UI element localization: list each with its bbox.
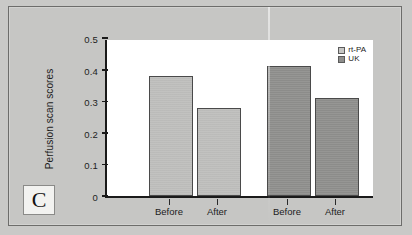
y-axis-tick-label: 0.2: [84, 129, 98, 140]
figure-panel: 00.10.20.30.40.5 rt-PAUK Perfusion scan …: [0, 0, 412, 235]
x-axis: BeforeAfterBeforeAfter: [105, 199, 373, 221]
legend-label: rt-PA: [348, 46, 366, 54]
y-axis-tick-label: 0.1: [84, 160, 98, 171]
x-axis-tick-label: After: [325, 206, 345, 217]
y-axis-tick-mark: [102, 164, 108, 166]
plot-area: 00.10.20.30.40.5 rt-PAUK: [105, 40, 373, 198]
bar: [267, 66, 311, 196]
bar: [315, 98, 359, 196]
x-axis-tick-label: After: [207, 206, 227, 217]
x-axis-tick-mark: [287, 199, 288, 205]
legend-label: UK: [348, 55, 359, 63]
y-axis-tick-mark: [102, 69, 108, 71]
legend-swatch-icon: [338, 56, 345, 63]
y-axis-tick-label: 0.4: [84, 66, 98, 77]
legend-swatch-icon: [338, 47, 345, 54]
x-axis-tick-mark: [169, 199, 170, 205]
x-axis-tick-mark: [335, 199, 336, 205]
y-axis-tick-mark: [102, 195, 108, 197]
chart-legend: rt-PAUK: [336, 44, 369, 65]
y-axis-tick-label: 0.3: [84, 97, 98, 108]
y-axis-tick-label: 0.5: [84, 34, 98, 45]
y-axis-title: Perfusion scan scores: [43, 40, 57, 198]
bar: [197, 108, 241, 196]
y-axis-tick-mark: [102, 132, 108, 134]
figure-frame: 00.10.20.30.40.5 rt-PAUK Perfusion scan …: [8, 6, 402, 226]
y-axis-tick-mark: [102, 101, 108, 103]
bar-group: [107, 40, 373, 196]
y-axis-tick-mark: [102, 37, 108, 39]
y-axis-tick-label: 0: [93, 192, 98, 203]
legend-item: rt-PA: [338, 46, 366, 54]
bar: [149, 76, 193, 196]
panel-letter: C: [23, 185, 55, 215]
x-axis-tick-label: Before: [273, 206, 301, 217]
x-axis-tick-mark: [217, 199, 218, 205]
x-axis-tick-label: Before: [155, 206, 183, 217]
legend-item: UK: [338, 55, 366, 63]
